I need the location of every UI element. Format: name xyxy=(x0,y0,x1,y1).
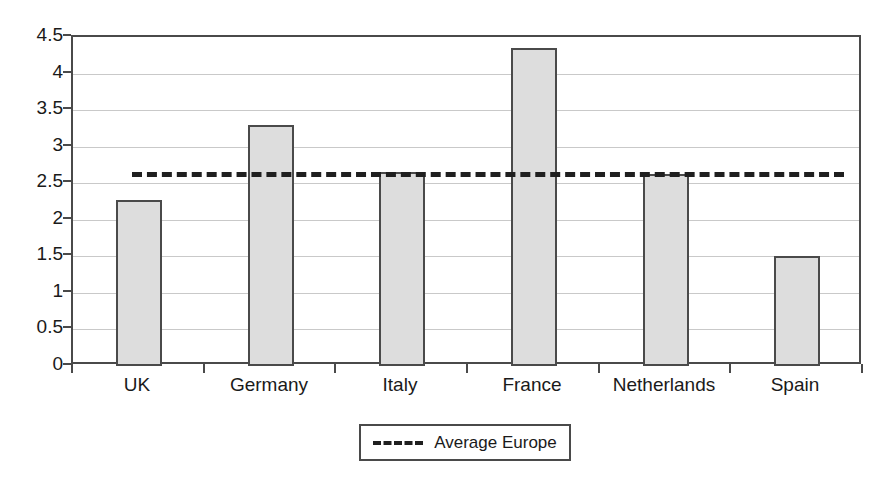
y-tick-mark xyxy=(63,217,71,219)
bar-chart: 00.511.522.533.544.5 UKGermanyItalyFranc… xyxy=(0,0,886,485)
y-tick-mark xyxy=(63,144,71,146)
y-tick-label: 1.5 xyxy=(37,244,63,263)
y-tick-label: 4.5 xyxy=(37,25,63,44)
bar-italy xyxy=(379,172,425,366)
gridline xyxy=(73,147,859,148)
gridline xyxy=(73,183,859,184)
y-tick-mark xyxy=(63,71,71,73)
y-axis: 00.511.522.533.544.5 xyxy=(0,0,63,485)
y-tick-label: 0.5 xyxy=(37,317,63,336)
gridline xyxy=(73,329,859,330)
plot-area xyxy=(71,35,861,364)
x-tick-mark xyxy=(466,364,468,373)
y-tick-mark xyxy=(63,363,71,365)
x-tick-mark xyxy=(203,364,205,373)
y-tick-mark xyxy=(63,180,71,182)
legend: Average Europe xyxy=(359,424,571,461)
gridline xyxy=(73,256,859,257)
y-tick-label: 0 xyxy=(52,354,63,373)
legend-label-average-europe: Average Europe xyxy=(434,434,557,451)
x-tick-label-france: France xyxy=(466,373,598,396)
x-tick-label-italy: Italy xyxy=(334,373,466,396)
gridline xyxy=(73,74,859,75)
x-tick-label-uk: UK xyxy=(71,373,203,396)
gridline xyxy=(73,110,859,111)
x-tick-label-netherlands: Netherlands xyxy=(598,373,730,396)
y-tick-mark xyxy=(63,290,71,292)
y-tick-mark xyxy=(63,107,71,109)
legend-dashed-line-icon xyxy=(373,441,423,445)
x-tick-mark xyxy=(71,364,73,373)
average-europe-line xyxy=(132,172,844,177)
bar-france xyxy=(511,48,557,366)
x-tick-mark xyxy=(598,364,600,373)
y-tick-label: 2.5 xyxy=(37,171,63,190)
bar-spain xyxy=(774,256,820,366)
x-tick-label-spain: Spain xyxy=(729,373,861,396)
bar-germany xyxy=(248,125,294,366)
y-tick-label: 2 xyxy=(52,208,63,227)
y-tick-label: 1 xyxy=(52,281,63,300)
bar-netherlands xyxy=(643,174,689,366)
x-tick-mark xyxy=(729,364,731,373)
y-tick-mark xyxy=(63,253,71,255)
y-tick-label: 4 xyxy=(52,62,63,81)
y-tick-mark xyxy=(63,326,71,328)
gridline xyxy=(73,220,859,221)
x-tick-mark xyxy=(334,364,336,373)
y-tick-mark xyxy=(63,34,71,36)
x-tick-mark xyxy=(861,364,863,373)
y-tick-label: 3 xyxy=(52,135,63,154)
bar-uk xyxy=(116,200,162,366)
gridline xyxy=(73,293,859,294)
x-tick-label-germany: Germany xyxy=(203,373,335,396)
y-tick-label: 3.5 xyxy=(37,98,63,117)
